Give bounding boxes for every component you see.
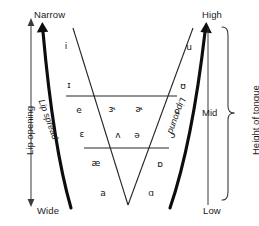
axis-label-height-of-tongue: Height of tongue — [250, 85, 259, 155]
vowel-close-front-unrounded: i — [65, 41, 68, 51]
vowel-close-mid-front-unrounded: e — [76, 105, 82, 115]
vowel-chart-svg — [0, 0, 259, 226]
vowel-open-mid-back-unrounded: ʌ — [115, 130, 120, 140]
vowel-open-mid-front-unrounded: ɛ — [80, 129, 85, 139]
vowel-mid-central-rhotic: ɚ — [135, 104, 142, 114]
vowel-mid-central-rhotic-stressed: ɝ — [109, 104, 116, 114]
axis-label-lip-opening: Lip opening — [24, 106, 35, 155]
vowel-open-mid-back-rounded: ɔ — [171, 130, 176, 140]
label-mid: Mid — [202, 107, 217, 118]
vowel-diagram-page: Narrow Wide High Low Mid Lip opening Hei… — [0, 0, 259, 226]
vowel-near-open-front-unrounded: æ — [92, 158, 101, 168]
vowel-close-back-rounded: u — [186, 42, 192, 52]
vowel-near-close-front-unrounded: ɪ — [67, 80, 70, 90]
label-wide: Wide — [37, 205, 59, 216]
label-high: High — [202, 9, 222, 20]
vowel-open-back-unrounded: ɑ — [148, 188, 154, 198]
label-narrow: Narrow — [34, 9, 65, 20]
vowel-open-back-rounded: ɒ — [157, 159, 163, 169]
vowel-open-front-unrounded: a — [100, 188, 106, 198]
vowel-close-mid-back-rounded: o — [174, 106, 180, 116]
vowel-mid-central-schwa: ə — [134, 130, 140, 140]
vowel-near-close-back-rounded: ʊ — [180, 81, 186, 91]
label-low: Low — [203, 205, 221, 216]
height-of-tongue-brace — [222, 27, 234, 200]
